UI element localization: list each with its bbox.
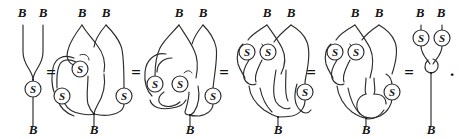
wire-right-down [433, 46, 442, 64]
top-label-left: B [17, 5, 27, 20]
s-node-label-left: S [152, 78, 158, 90]
wire-hook [331, 60, 344, 85]
diagram-3: S S S B B B [145, 5, 221, 137]
equals-sign-1: = [46, 63, 56, 82]
s-node-label-top: S [77, 63, 83, 75]
s-node-label-mid: S [265, 46, 271, 58]
merge-dot [93, 113, 95, 115]
diagram-2: S S S B B B [52, 5, 132, 137]
diagram-1: S B B B [17, 5, 48, 137]
bottom-label: B [426, 122, 436, 137]
wire-g [274, 70, 290, 109]
wire-hook2 [343, 60, 350, 82]
top-label-left: B [350, 5, 360, 20]
diagram-6: S S B B B [413, 5, 450, 137]
s-node-label-mid: S [177, 78, 183, 90]
wire-hook [243, 60, 256, 85]
top-label-right: B [374, 5, 384, 20]
s-node-label-mid: S [353, 46, 359, 58]
top-label-right: B [436, 5, 446, 20]
top-label-left: B [415, 5, 425, 20]
wire-c [274, 25, 291, 42]
merge-dot [365, 117, 367, 119]
bottom-label: B [361, 122, 371, 137]
top-label-left: B [77, 5, 87, 20]
wire-right-input [33, 25, 43, 80]
equals-sign-2: = [131, 63, 141, 82]
wire-left-inner [157, 58, 172, 72]
top-label-right: B [101, 5, 111, 20]
s-node-label: S [30, 83, 36, 95]
string-diagram-equation-figure: S B B B = S S S B B B [0, 0, 459, 139]
wire-lower-loop [150, 100, 186, 109]
s-node-label-right: S [389, 86, 395, 98]
s-node-label-right: S [210, 90, 216, 102]
bottom-label: B [185, 122, 195, 137]
wire-inner-bend [80, 54, 89, 60]
wire-b [179, 25, 197, 78]
wire-left-down [421, 46, 430, 64]
wire-a [248, 25, 267, 40]
wire-j [278, 100, 305, 117]
wire-e [185, 92, 190, 115]
diagram-4: S S S B B B [237, 5, 313, 137]
wire-f [190, 86, 199, 115]
diagram-5: S S S B B B [325, 5, 400, 137]
wire-g [365, 78, 366, 94]
wire-f [94, 74, 105, 114]
wire-hook2 [255, 60, 262, 82]
top-label-left: B [262, 5, 272, 20]
wire-merge-curve [425, 59, 438, 73]
equals-sign-4: = [306, 63, 316, 82]
merge-dot [430, 72, 432, 74]
wire-e [337, 86, 366, 118]
merge-dot [189, 114, 191, 116]
wire-tick [184, 71, 192, 73]
wire-h [374, 78, 375, 94]
top-label-left: B [174, 5, 184, 20]
equals-sign-3: = [219, 63, 229, 82]
equals-sign-5: = [404, 63, 414, 82]
wire-a [155, 25, 179, 76]
wire-a [336, 25, 355, 40]
s-node-label-right: S [302, 86, 308, 98]
bottom-label: B [28, 122, 38, 137]
s-node-label-left: S [59, 90, 65, 102]
s-node-label-left: S [244, 46, 250, 58]
terminal-period: . [450, 61, 454, 80]
wire-e [87, 76, 94, 114]
s-node-label-left: S [418, 32, 424, 44]
wire-lower-loop2 [159, 92, 180, 106]
wire-h [286, 70, 289, 101]
wire-d [106, 25, 124, 88]
wire-left-input [23, 25, 33, 80]
wire-i [94, 104, 124, 115]
wire-g [190, 104, 213, 116]
top-label-right: B [38, 5, 48, 20]
bottom-label: B [273, 122, 283, 137]
bottom-label: B [89, 122, 99, 137]
s-node-label-right: S [439, 32, 445, 44]
top-label-right: B [286, 5, 296, 20]
wire-c [192, 25, 203, 44]
top-label-right: B [198, 5, 208, 20]
merge-dot [277, 116, 279, 118]
wire-g [65, 104, 94, 115]
s-node-label-left: S [332, 46, 338, 58]
s-node-label-right: S [121, 90, 127, 102]
wire-d [203, 25, 217, 88]
wire-d [379, 25, 396, 74]
